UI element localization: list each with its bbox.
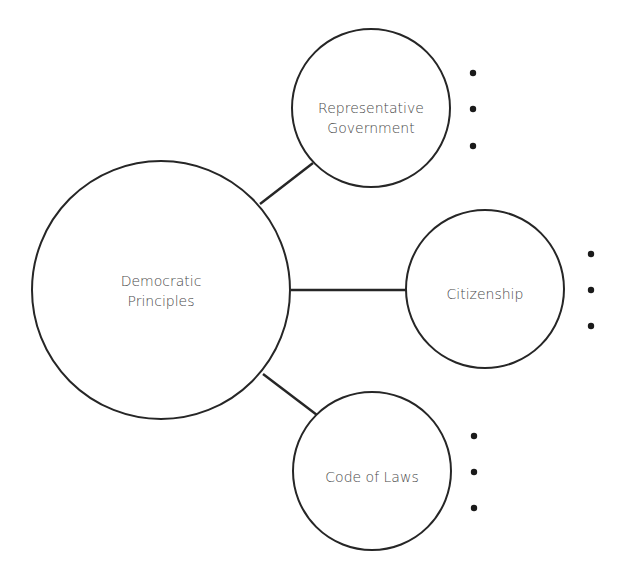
center-node: Democratic Principles: [32, 161, 290, 419]
bullet-icon: [471, 469, 477, 475]
branch-node-code-of-laws: Code of Laws: [293, 392, 451, 550]
center-label-line-2: Principles: [128, 293, 195, 309]
bullet-icon: [470, 143, 476, 149]
branch-node-representative-government: Representative Government: [292, 29, 450, 187]
branch-label-line-2: Government: [327, 120, 414, 136]
connector-representative-government: [260, 163, 313, 204]
bullet-icon: [588, 323, 594, 329]
bullet-icon: [471, 433, 477, 439]
branch-label: Code of Laws: [325, 469, 418, 485]
bullet-icon: [588, 287, 594, 293]
bullet-icon: [471, 505, 477, 511]
branch-node-citizenship: Citizenship: [406, 210, 564, 368]
bullet-list-citizenship: [588, 251, 594, 329]
bullet-icon: [470, 106, 476, 112]
bullet-list-code-of-laws: [471, 433, 477, 511]
branch-label: Citizenship: [447, 286, 524, 302]
branch-label-line-1: Representative: [318, 100, 424, 116]
concept-web-diagram: Democratic Principles Representative Gov…: [0, 0, 626, 583]
center-label-line-1: Democratic: [121, 273, 202, 289]
center-circle: [32, 161, 290, 419]
bullet-icon: [588, 251, 594, 257]
connector-code-of-laws: [263, 374, 317, 415]
bullet-icon: [470, 70, 476, 76]
bullet-list-representative-government: [470, 70, 476, 149]
